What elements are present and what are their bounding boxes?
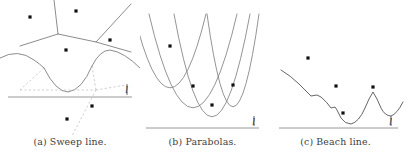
voronoi-edge — [54, 0, 131, 42]
voronoi-edge — [20, 34, 58, 46]
site-point — [65, 117, 68, 120]
parabolas-canvas: l — [140, 0, 265, 136]
beach-arc — [0, 53, 44, 68]
site-point — [168, 44, 171, 47]
site-point — [191, 84, 194, 87]
beach-arc — [44, 66, 92, 92]
beach-line-canvas: l — [265, 0, 406, 136]
sweep-line-canvas: l — [0, 0, 140, 136]
parabolas-sweep-label: l — [252, 117, 255, 127]
subfigure-beach-line: l (c) Beach line. — [265, 0, 406, 158]
sweep-line-svg: l — [0, 0, 140, 136]
site-point — [210, 103, 213, 106]
parabola-curve — [140, 14, 206, 88]
dashed-edge — [96, 85, 126, 90]
caption-parabolas: (b) Parabolas. — [140, 136, 265, 147]
beach-line-arcs-group — [0, 50, 140, 92]
dashed-edges-group — [20, 66, 126, 136]
dashed-edge — [92, 66, 96, 90]
sweep-line-label: l — [125, 85, 128, 95]
site-point — [334, 84, 337, 87]
beach-line-sweep-label: l — [389, 117, 392, 127]
voronoi-edges-group — [20, 0, 131, 52]
beach-line-svg: l — [265, 0, 406, 136]
parabola-curve — [149, 14, 237, 108]
caption-sweep-line: (a) Sweep line. — [0, 136, 140, 147]
dashed-edge — [20, 68, 44, 90]
site-point — [371, 85, 374, 88]
parabolas-svg: l — [140, 0, 265, 136]
site-point — [306, 56, 309, 59]
beach-arc — [92, 50, 140, 68]
caption-beach-line: (c) Beach line. — [265, 136, 406, 147]
subfigure-parabolas: l (b) Parabolas. — [140, 0, 265, 158]
site-point — [74, 9, 77, 12]
site-point — [231, 83, 234, 86]
site-point — [108, 38, 111, 41]
parabola-curves-group — [140, 14, 259, 117]
subfigure-sweep-line: l (a) Sweep line. — [0, 0, 140, 158]
beach-line-curve — [281, 70, 403, 124]
site-point — [341, 111, 344, 114]
figure-row: l (a) Sweep line. — [0, 0, 406, 158]
site-points-group — [306, 56, 374, 114]
site-point — [90, 104, 93, 107]
site-point — [28, 15, 31, 18]
parabola-curve — [174, 14, 250, 117]
site-point — [64, 48, 67, 51]
parabola-curve — [207, 14, 259, 107]
